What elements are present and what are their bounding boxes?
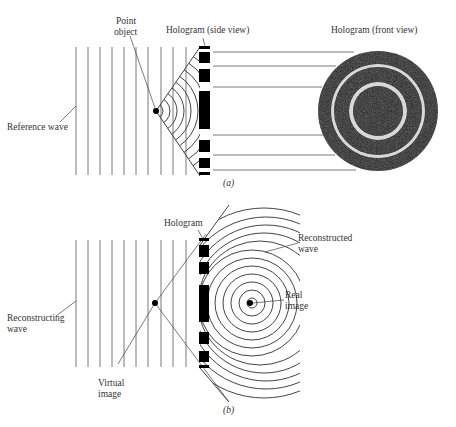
reconstructing-wave-fronts — [76, 240, 186, 367]
real-image-label-2: image — [285, 301, 308, 311]
virtual-image-label: Virtual — [98, 378, 125, 388]
panel-a: Point object Hologram (side view) Hologr… — [7, 16, 438, 189]
virtual-image-rays — [118, 234, 229, 402]
panel-a-caption: (a) — [223, 178, 234, 189]
virtual-image-dot — [152, 300, 158, 306]
reference-wave-label: Reference wave — [7, 122, 68, 132]
hologram-b-leader — [198, 230, 203, 239]
reconstructing-wave-label: Reconstructing — [7, 313, 65, 323]
point-object-leader — [130, 36, 155, 108]
hologram-front-view — [318, 51, 438, 171]
reference-wave-leader — [60, 106, 76, 122]
point-object-dot — [153, 108, 159, 114]
real-image-dot — [247, 300, 253, 306]
hologram-b-label: Hologram — [164, 218, 203, 228]
hologram-diagram: Point object Hologram (side view) Hologr… — [0, 0, 456, 427]
hologram-side-leader — [203, 38, 205, 46]
point-object-label-2: object — [114, 27, 138, 37]
real-image-leader — [253, 300, 284, 303]
hologram-side-view — [199, 46, 210, 175]
hologram-side-view-label: Hologram (side view) — [166, 25, 249, 36]
point-object-label: Point — [116, 16, 136, 26]
hologram-front-view-label: Hologram (front view) — [331, 25, 418, 36]
panel-b-caption: (b) — [223, 405, 234, 416]
hologram-b — [199, 238, 209, 368]
panel-b: Hologram Reconstructed wave Real image R… — [7, 205, 359, 416]
virtual-image-label-2: image — [98, 389, 121, 399]
reconstructed-wave-label: Reconstructed — [298, 233, 353, 243]
reconstructing-wave-label-2: wave — [7, 324, 27, 334]
real-image-label: Real — [285, 290, 303, 300]
reconstructed-wave-label-2: wave — [298, 244, 318, 254]
